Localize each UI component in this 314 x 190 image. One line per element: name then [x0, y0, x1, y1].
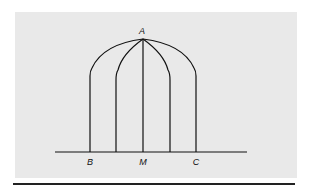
dome-diagram: A B M C [0, 0, 314, 190]
bottom-rule [13, 183, 295, 185]
inner-right-arc [143, 39, 170, 152]
label-m: M [139, 157, 147, 167]
label-c: C [193, 157, 200, 167]
label-b: B [87, 157, 93, 167]
label-a: A [138, 26, 145, 36]
inner-left-arc [116, 39, 143, 152]
